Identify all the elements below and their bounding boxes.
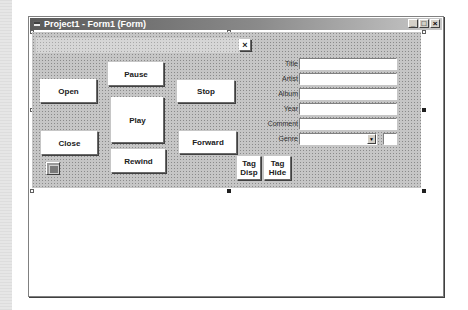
title-input[interactable] bbox=[299, 58, 397, 70]
title-label: Title bbox=[248, 58, 298, 70]
close-button[interactable]: Close bbox=[41, 131, 98, 155]
window-titlebar[interactable]: Project1 - Form1 (Form) _ □ × bbox=[30, 18, 442, 30]
minimize-button[interactable]: _ bbox=[408, 19, 418, 28]
forward-button[interactable]: Forward bbox=[179, 131, 237, 154]
album-label: Album bbox=[248, 88, 298, 100]
pause-button[interactable]: Pause bbox=[108, 62, 164, 86]
comment-label: Comment bbox=[248, 118, 298, 130]
resize-handle-bl bbox=[30, 189, 34, 193]
genre-label: Genre bbox=[248, 133, 298, 145]
maximize-button[interactable]: □ bbox=[419, 19, 429, 28]
picture-icon[interactable] bbox=[46, 162, 60, 175]
window-controls: _ □ × bbox=[408, 19, 440, 28]
artist-input[interactable] bbox=[299, 73, 397, 85]
tag-hide-button[interactable]: Tag Hide bbox=[264, 156, 291, 180]
close-window-button[interactable]: × bbox=[430, 19, 440, 28]
artist-label: Artist bbox=[248, 73, 298, 85]
form-icon bbox=[33, 21, 41, 27]
open-button[interactable]: Open bbox=[40, 79, 97, 103]
year-input[interactable] bbox=[299, 103, 397, 115]
stop-button[interactable]: Stop bbox=[177, 80, 235, 103]
resize-handle-tr bbox=[422, 30, 426, 34]
tag-disp-button[interactable]: Tag Disp bbox=[237, 156, 261, 180]
resize-handle-mr[interactable] bbox=[422, 108, 426, 112]
form-canvas[interactable]: × Open Close Pause Play Rewind Stop Forw… bbox=[32, 32, 421, 188]
rewind-button[interactable]: Rewind bbox=[111, 149, 166, 173]
window-title: Project1 - Form1 (Form) bbox=[44, 19, 146, 29]
form-designer-window: Project1 - Form1 (Form) _ □ × × Open Clo… bbox=[28, 16, 444, 297]
close-x-button[interactable]: × bbox=[239, 39, 251, 51]
left-toolbox-strip bbox=[0, 0, 12, 310]
chevron-down-icon[interactable]: ▼ bbox=[367, 134, 376, 144]
genre-extra-input[interactable] bbox=[383, 133, 397, 145]
resize-handle-bm[interactable] bbox=[227, 189, 231, 193]
resize-handle-br[interactable] bbox=[422, 189, 426, 193]
header-frame[interactable] bbox=[36, 38, 240, 53]
year-label: Year bbox=[248, 103, 298, 115]
comment-input[interactable] bbox=[299, 118, 397, 130]
album-input[interactable] bbox=[299, 88, 397, 100]
play-button[interactable]: Play bbox=[111, 97, 164, 143]
genre-combo[interactable]: ▼ bbox=[299, 133, 377, 145]
